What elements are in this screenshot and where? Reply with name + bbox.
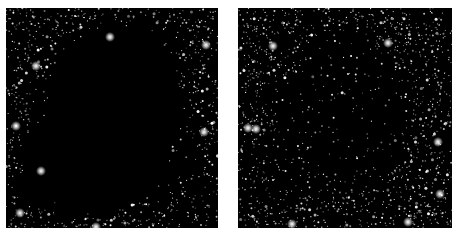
right-starfield-panel <box>238 8 452 228</box>
right-starfield-image <box>238 8 452 228</box>
left-starfield-image <box>6 8 218 228</box>
left-starfield-panel <box>6 8 218 228</box>
